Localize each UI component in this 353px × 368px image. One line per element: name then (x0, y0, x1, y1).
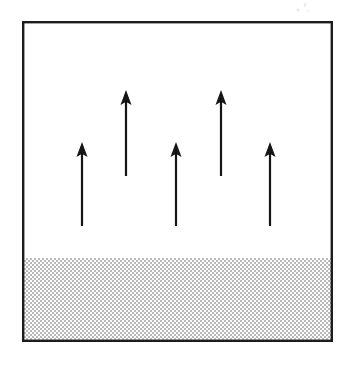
diagram-svg (0, 0, 353, 368)
shaded-ground-region (23, 258, 332, 341)
figure-canvas (0, 0, 353, 368)
